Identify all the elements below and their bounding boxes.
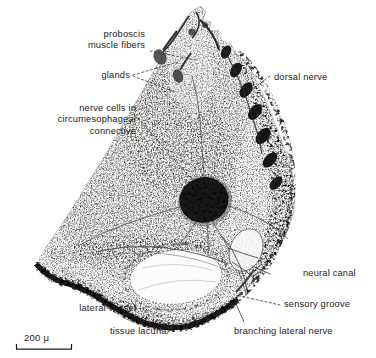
label-nerve-cells-line2: circumesophageal (58, 114, 136, 125)
label-proboscis-line2: muscle fibers (88, 40, 145, 51)
label-sensory-groove: sensory groove (284, 299, 350, 310)
label-nerve-cells-circumesophageal-connective: nerve cells in circumesophageal connecti… (58, 103, 136, 137)
leader-sensory-groove (240, 296, 280, 305)
label-proboscis-muscle-fibers: proboscis muscle fibers (88, 29, 145, 52)
label-tissue-lacuna-text: tissue lacuna (110, 326, 167, 337)
label-glands: glands (102, 70, 130, 81)
label-lateral-vessel: lateral vessel (79, 303, 136, 314)
label-sensory-groove-text: sensory groove (284, 299, 350, 310)
label-branching-lateral-nerve-text: branching lateral nerve (234, 326, 333, 337)
specimen-section (30, 0, 310, 340)
label-dorsal-nerve: dorsal nerve (274, 72, 327, 83)
label-nerve-cells-line3: connective (58, 126, 136, 137)
label-proboscis-line1: proboscis (88, 29, 145, 40)
label-neural-canal: neural canal (303, 268, 356, 279)
scale-bar-text: 200 μ (24, 332, 49, 343)
label-branching-lateral-nerve: branching lateral nerve (234, 326, 333, 337)
scale-bar (16, 344, 72, 349)
label-glands-text: glands (102, 70, 130, 81)
label-lateral-vessel-text: lateral vessel (79, 303, 136, 314)
label-tissue-lacuna: tissue lacuna (110, 326, 167, 337)
label-neural-canal-text: neural canal (303, 268, 356, 279)
label-dorsal-nerve-text: dorsal nerve (274, 72, 327, 83)
label-nerve-cells-line1: nerve cells in (58, 103, 136, 114)
scale-bar-label: 200 μ (24, 332, 49, 343)
